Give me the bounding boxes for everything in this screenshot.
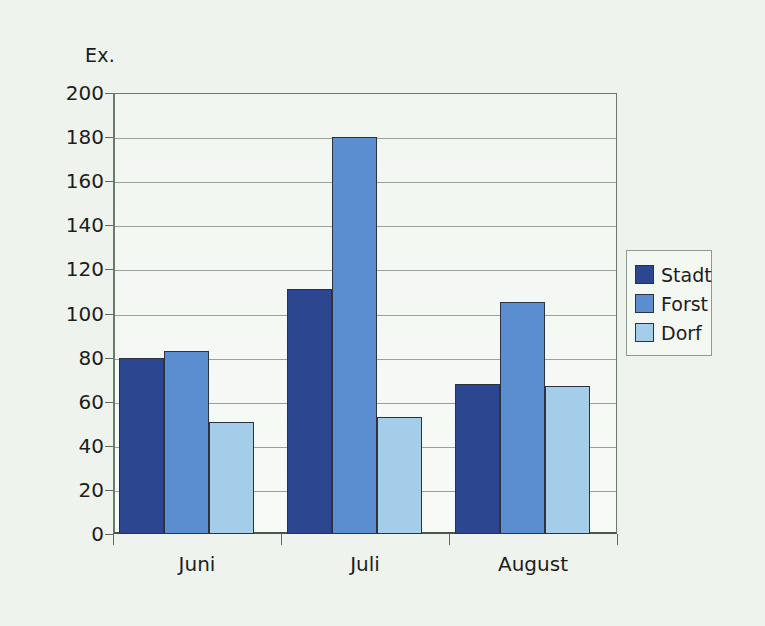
y-axis-tick-label: 140	[44, 213, 104, 237]
y-axis-tick-mark	[105, 269, 113, 270]
legend-label-dorf: Dorf	[661, 322, 702, 344]
y-axis-tick-mark	[105, 358, 113, 359]
bar-stadt-august	[455, 384, 500, 534]
y-axis-tick-mark	[105, 137, 113, 138]
bar-forst-juli	[332, 137, 377, 534]
y-axis-tick-mark	[105, 225, 113, 226]
y-axis-tick-mark	[105, 446, 113, 447]
bar-chart: Ex. 200180160140120100806040200 JuniJuli…	[0, 0, 765, 626]
bar-forst-august	[500, 302, 545, 534]
legend-swatch-dorf	[635, 323, 654, 342]
x-axis-label-juli: Juli	[350, 552, 380, 576]
bar-stadt-juli	[287, 289, 332, 534]
y-axis-tick-label: 200	[44, 81, 104, 105]
legend-item-stadt[interactable]: Stadt	[635, 260, 711, 289]
legend-swatch-forst	[635, 294, 654, 313]
y-axis-tick-label: 40	[44, 434, 104, 458]
y-axis-tick-label: 100	[44, 302, 104, 326]
x-axis-tick-mark	[617, 534, 618, 545]
legend-item-dorf[interactable]: Dorf	[635, 318, 711, 347]
bar-dorf-juli	[377, 417, 422, 534]
y-axis-tick-mark	[105, 93, 113, 94]
y-axis-tick-mark	[105, 534, 113, 535]
y-axis-tick-mark	[105, 181, 113, 182]
legend-label-forst: Forst	[661, 293, 708, 315]
x-axis-label-august: August	[498, 552, 568, 576]
legend-item-forst[interactable]: Forst	[635, 289, 711, 318]
y-axis-tick-label: 0	[44, 522, 104, 546]
x-axis-label-juni: Juni	[179, 552, 216, 576]
y-axis-tick-mark	[105, 490, 113, 491]
x-axis-tick-mark	[281, 534, 282, 545]
bars-layer	[113, 93, 617, 534]
y-axis-tick-label: 20	[44, 478, 104, 502]
y-axis-tick-label: 160	[44, 169, 104, 193]
legend-swatch-stadt	[635, 265, 654, 284]
y-axis-tick-label: 60	[44, 390, 104, 414]
legend-label-stadt: Stadt	[661, 264, 712, 286]
bar-dorf-juni	[209, 422, 254, 534]
y-axis-tick-mark	[105, 314, 113, 315]
y-axis-tick-label: 80	[44, 346, 104, 370]
y-axis-tick-label: 120	[44, 257, 104, 281]
y-axis-tick-label: 180	[44, 125, 104, 149]
x-axis-tick-mark	[113, 534, 114, 545]
bar-stadt-juni	[119, 358, 164, 534]
bar-dorf-august	[545, 386, 590, 534]
y-axis-unit-label: Ex.	[85, 44, 115, 66]
bar-forst-juni	[164, 351, 209, 534]
y-axis-ticks: 200180160140120100806040200	[40, 93, 104, 534]
y-axis-tick-mark	[105, 402, 113, 403]
x-axis-tick-mark	[449, 534, 450, 545]
legend: StadtForstDorf	[626, 250, 712, 356]
